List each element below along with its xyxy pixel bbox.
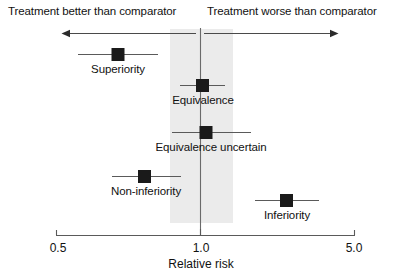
study-row-superiority: [78, 48, 158, 61]
x-tick-label-low: 0.5: [50, 241, 67, 255]
x-tick-label-high: 5.0: [346, 241, 363, 255]
row-label-equivalence-uncertain: Equivalence uncertain: [155, 141, 266, 153]
left-direction-label: Treatment better than comparator: [8, 5, 176, 17]
row-label-superiority: Superiority: [91, 63, 145, 75]
point-estimate-marker: [112, 48, 125, 61]
point-estimate-marker: [280, 194, 293, 207]
point-estimate-marker: [138, 170, 151, 183]
study-row-inferiority: [255, 194, 319, 207]
x-axis: [56, 229, 355, 236]
row-label-equivalence: Equivalence: [172, 94, 234, 106]
point-estimate-marker: [200, 126, 213, 139]
x-axis-title: Relative risk: [168, 257, 233, 271]
forest-plot: [0, 0, 398, 273]
right-direction-label: Treatment worse than comparator: [207, 5, 377, 17]
x-tick-label-mid: 1.0: [193, 241, 210, 255]
point-estimate-marker: [196, 79, 209, 92]
row-label-inferiority: Inferiority: [264, 209, 310, 221]
row-label-non-inferiority: Non-inferiority: [111, 185, 181, 197]
